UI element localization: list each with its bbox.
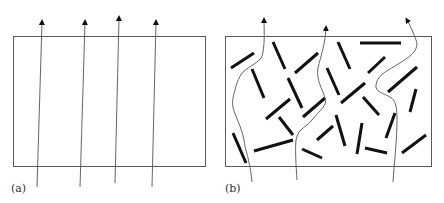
platelet [273, 42, 285, 69]
platelet [231, 53, 254, 68]
platelet [302, 149, 322, 158]
matrix-frame [226, 37, 432, 167]
platelet [288, 78, 302, 108]
diffusion-path-arrow [37, 22, 42, 187]
platelet [295, 53, 318, 73]
platelet [341, 83, 365, 103]
platelet [357, 123, 362, 154]
platelet [327, 68, 339, 95]
platelet [410, 89, 416, 112]
platelet [365, 148, 387, 153]
diffusion-path-diagram [0, 0, 444, 203]
platelet [254, 140, 293, 151]
matrix-frame [14, 37, 206, 167]
platelet [363, 97, 379, 115]
diffusion-path-arrow [152, 22, 156, 187]
platelet [266, 99, 290, 119]
platelet [233, 133, 246, 163]
diffusion-path-arrow [232, 20, 264, 182]
diffusion-path-arrow [80, 22, 85, 187]
platelet [368, 57, 385, 73]
platelet [252, 69, 264, 98]
platelet [336, 115, 345, 146]
panel-b-platelet-filled-matrix [226, 20, 432, 182]
diffusion-path-arrow [115, 18, 119, 183]
platelet [388, 67, 417, 92]
platelet [386, 113, 395, 138]
panel-a-label: (a) [11, 182, 26, 195]
panel-b-label: (b) [225, 182, 241, 195]
platelet [279, 117, 293, 135]
panel-a-unfilled-matrix [14, 18, 206, 187]
platelet [303, 98, 325, 117]
platelet [402, 135, 426, 153]
platelet [317, 126, 333, 140]
platelet [338, 42, 350, 69]
